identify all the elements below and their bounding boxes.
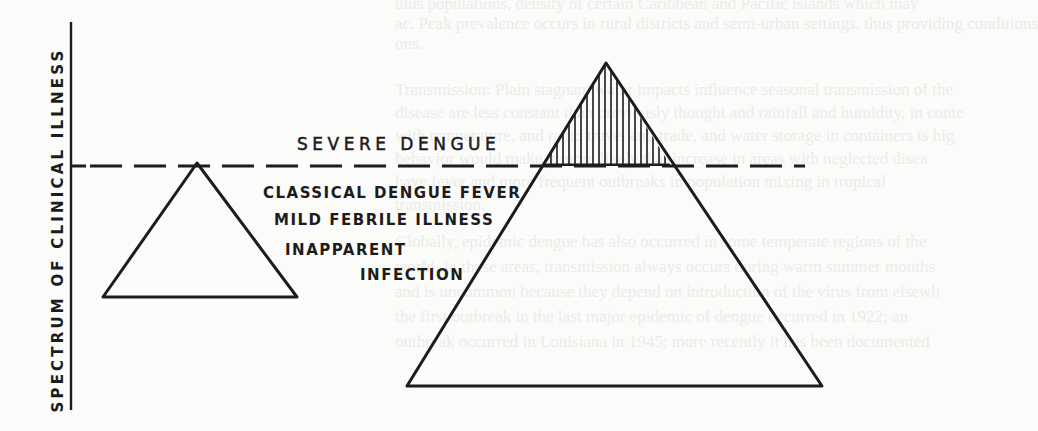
label-classical-dengue-fever: CLASSICAL DENGUE FEVER xyxy=(263,186,521,201)
severe-dengue-hatching xyxy=(540,60,672,170)
axis-label-spectrum: SPECTRUM OF CLINICAL ILLNESS xyxy=(49,47,67,412)
label-mild-febrile-illness: MILD FEBRILE ILLNESS xyxy=(274,213,494,228)
label-infection: INFECTION xyxy=(360,268,464,283)
label-severe-dengue: SEVERE DENGUE xyxy=(297,136,500,153)
label-inapparent: INAPPARENT xyxy=(285,243,407,258)
